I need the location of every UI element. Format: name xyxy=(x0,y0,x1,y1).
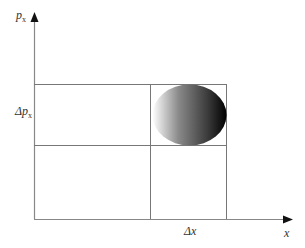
delta-p-label-sub: x xyxy=(28,111,32,120)
x-axis-label: x xyxy=(284,226,289,241)
delta-p-label-main: Δp xyxy=(15,104,28,118)
y-axis-label: px xyxy=(16,8,26,24)
wave-packet-blob xyxy=(153,85,227,146)
x-axis-arrow-icon xyxy=(283,216,293,224)
delta-p-label: Δpx xyxy=(15,104,32,120)
y-axis-label-sub: x xyxy=(22,15,26,24)
y-axis-arrow-icon xyxy=(31,12,39,22)
delta-x-label: Δx xyxy=(184,224,196,239)
phase-space-diagram xyxy=(0,0,305,248)
